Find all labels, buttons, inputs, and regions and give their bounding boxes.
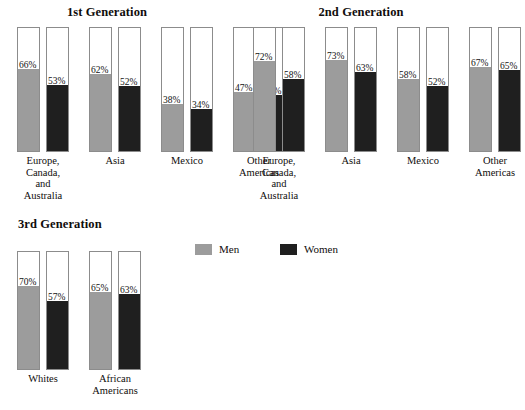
bar-men [89,27,112,152]
legend-swatch-men-icon [195,244,212,255]
bar-value-label: 65% [500,61,517,71]
legend-label-women: Women [304,243,338,255]
bar-fill [427,86,448,151]
legend-item-men: Men [195,243,239,255]
bar-value-label: 66% [19,60,36,70]
bar-men [17,251,40,370]
bar-value-label: 73% [327,51,344,61]
legend-label-men: Men [219,243,239,255]
bar-fill [398,79,419,152]
category-label: Whites [3,373,83,385]
bar-fill [254,61,275,151]
category-label: Mexico [147,155,227,167]
bar-value-label: 34% [192,100,209,110]
bar-value-label: 58% [399,70,416,80]
category-label: Asia [75,155,155,167]
bar-value-label: 62% [91,65,108,75]
bar-women [426,27,449,152]
bar-fill [90,292,111,369]
bar-value-label: 52% [120,77,137,87]
bar-fill [18,69,39,152]
bar-women [118,251,141,370]
bar-women [190,27,213,152]
bar-value-label: 72% [255,52,272,62]
category-label: Asia [311,155,391,167]
bar-men [17,27,40,152]
legend: Men Women [195,243,375,263]
panel-3rd-generation: 3rd Generation 70%57%65%63%WhitesAfrican… [0,205,234,410]
plot-area-2nd-generation: 72%58%73%63%58%52%67%65%Europe, Canada, … [234,0,468,205]
bar-women [282,27,305,152]
bar-fill [47,85,68,151]
category-label: Other Americas [455,155,525,178]
bar-fill [18,286,39,369]
bar-fill [499,70,520,151]
bar-women [118,27,141,152]
category-label: Europe, Canada, and Australia [239,155,319,201]
panel-1st-generation: 1st Generation 66%53%62%52%38%34%47%45%E… [0,0,234,205]
bar-women [46,27,69,152]
bar-men [397,27,420,152]
bar-fill [119,294,140,369]
bar-men [161,27,184,152]
bar-men [253,27,276,152]
bar-women [354,27,377,152]
bar-women [498,27,521,152]
bar-value-label: 53% [48,76,65,86]
bar-fill [326,60,347,151]
bar-fill [355,72,376,151]
bar-men [469,27,492,152]
category-label: Europe, Canada, and Australia [3,155,83,201]
bar-fill [283,79,304,152]
bar-value-label: 70% [19,277,36,287]
bar-men [89,251,112,370]
bar-value-label: 63% [120,285,137,295]
plot-area-1st-generation: 66%53%62%52%38%34%47%45%Europe, Canada, … [0,0,234,205]
bar-value-label: 67% [471,58,488,68]
bar-value-label: 57% [48,292,65,302]
bar-value-label: 38% [163,95,180,105]
bar-value-label: 65% [91,283,108,293]
legend-swatch-women-icon [280,244,297,255]
bar-value-label: 63% [356,63,373,73]
bar-fill [470,67,491,151]
bar-value-label: 52% [428,77,445,87]
bar-women [46,251,69,370]
bar-fill [47,301,68,369]
bar-fill [90,74,111,152]
plot-area-3rd-generation: 70%57%65%63%WhitesAfrican Americans [0,205,234,410]
bar-value-label: 58% [284,70,301,80]
bar-fill [119,86,140,151]
bar-men [325,27,348,152]
bar-fill [191,109,212,152]
bar-fill [162,104,183,152]
category-label: Mexico [383,155,463,167]
panel-2nd-generation: 2nd Generation 72%58%73%63%58%52%67%65%E… [234,0,468,205]
legend-item-women: Women [280,243,338,255]
category-label: African Americans [75,373,155,396]
